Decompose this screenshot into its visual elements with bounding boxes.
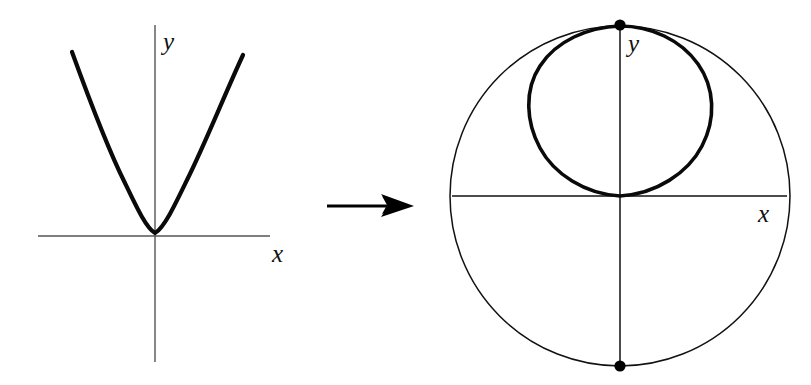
right-panel-sphere: x y xyxy=(450,19,790,371)
north-pole-point xyxy=(614,19,625,30)
diagram-svg: x y x y xyxy=(0,0,811,385)
figure-canvas: x y x y xyxy=(0,0,811,385)
left-x-axis-label: x xyxy=(271,240,283,267)
south-pole-point xyxy=(614,360,625,371)
parabola-curve xyxy=(72,52,243,233)
left-panel-parabola: x y xyxy=(38,25,283,362)
right-x-axis-label: x xyxy=(757,200,769,227)
projection-arrow xyxy=(327,194,414,217)
left-y-axis-label: y xyxy=(160,28,175,55)
right-y-axis-label: y xyxy=(625,30,640,57)
